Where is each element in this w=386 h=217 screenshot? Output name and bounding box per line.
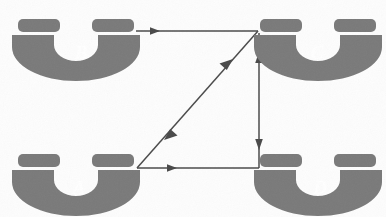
figure-container: graph theory: [0, 0, 386, 217]
node-d-label: D: [312, 177, 327, 198]
node-a-label: A: [72, 177, 86, 198]
node-c-label: C: [311, 42, 324, 63]
node-b-label: B: [74, 42, 88, 63]
node-graph-diagram: graph theory: [0, 0, 386, 217]
paper-background: [0, 0, 386, 217]
